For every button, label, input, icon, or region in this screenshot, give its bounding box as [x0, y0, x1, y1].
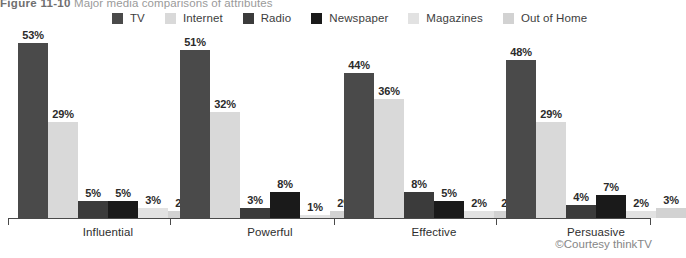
bar: 51%	[180, 50, 210, 218]
x-axis-tick	[334, 218, 335, 225]
bar: 7%	[596, 195, 626, 218]
bar-group: 51%32%3%8%1%2%	[180, 26, 360, 218]
bar: 32%	[210, 112, 240, 218]
legend-item-label: Internet	[183, 12, 223, 24]
bar-value-label: 3%	[247, 194, 263, 206]
bar-rect	[108, 201, 138, 218]
bar: 48%	[506, 60, 536, 218]
bar-rect	[464, 211, 494, 218]
bar-rect	[626, 211, 656, 218]
bar-value-label: 36%	[378, 85, 400, 97]
bar-rect	[596, 195, 626, 218]
legend-item-label: TV	[130, 12, 145, 24]
legend-item: TV	[112, 12, 145, 24]
bar-value-label: 29%	[52, 108, 74, 120]
bar: 3%	[240, 208, 270, 218]
bar-value-label: 48%	[510, 46, 532, 58]
chart-legend: TVInternetRadioNewspaperMagazinesOut of …	[112, 10, 607, 26]
legend-swatch-icon	[311, 13, 322, 24]
legend-item-label: Out of Home	[521, 12, 587, 24]
bar-rect	[18, 43, 48, 218]
bar-value-label: 3%	[145, 194, 161, 206]
bar: 29%	[536, 122, 566, 218]
legend-item: Internet	[165, 12, 223, 24]
x-axis-category-label: Effective	[344, 226, 524, 238]
bar-value-label: 7%	[603, 181, 619, 193]
bar: 4%	[566, 205, 596, 218]
chart-credit: ©Courtesy thinkTV	[555, 238, 652, 250]
bar-group: 53%29%5%5%3%2%	[18, 26, 198, 218]
bar-value-label: 5%	[115, 187, 131, 199]
bar-rect	[240, 208, 270, 218]
bar: 5%	[78, 201, 108, 218]
bar: 3%	[656, 208, 686, 218]
bar: 29%	[48, 122, 78, 218]
bar-value-label: 5%	[441, 187, 457, 199]
bar: 36%	[374, 99, 404, 218]
x-axis-tick	[650, 218, 651, 225]
legend-item-label: Newspaper	[329, 12, 388, 24]
bar-rect	[374, 99, 404, 218]
bar-rect	[270, 192, 300, 218]
legend-item: Newspaper	[311, 12, 388, 24]
bar-group: 48%29%4%7%2%3%	[506, 26, 686, 218]
legend-swatch-icon	[503, 13, 514, 24]
bar-value-label: 3%	[663, 194, 679, 206]
bar-rect	[48, 122, 78, 218]
legend-item-label: Magazines	[426, 12, 483, 24]
bar-value-label: 51%	[184, 36, 206, 48]
x-axis-line	[8, 218, 650, 219]
bar-rect	[180, 50, 210, 218]
bar-rect	[506, 60, 536, 218]
bar: 44%	[344, 73, 374, 218]
bar-value-label: 2%	[471, 197, 487, 209]
bar-value-label: 44%	[348, 59, 370, 71]
bar-value-label: 4%	[573, 191, 589, 203]
bar: 8%	[404, 192, 434, 218]
bar: 53%	[18, 43, 48, 218]
bar-value-label: 53%	[22, 29, 44, 41]
bar-rect	[344, 73, 374, 218]
bar-rect	[404, 192, 434, 218]
x-axis-tick	[170, 218, 171, 225]
bar-value-label: 29%	[540, 108, 562, 120]
bar-rect	[536, 122, 566, 218]
legend-item: Radio	[243, 12, 292, 24]
bar-value-label: 8%	[411, 178, 427, 190]
legend-swatch-icon	[243, 13, 254, 24]
bar-rect	[656, 208, 686, 218]
bar: 5%	[434, 201, 464, 218]
figure-caption: Major media comparisons of attributes	[74, 0, 273, 9]
chart-plot-area: 53%29%5%5%3%2%51%32%3%8%1%2%44%36%8%5%2%…	[0, 26, 658, 218]
bar: 8%	[270, 192, 300, 218]
bar-rect	[566, 205, 596, 218]
bar-value-label: 1%	[307, 201, 323, 213]
legend-item: Out of Home	[503, 12, 587, 24]
bar-value-label: 2%	[633, 197, 649, 209]
bar: 2%	[464, 211, 494, 218]
x-axis-category-label: Powerful	[180, 226, 360, 238]
bar-rect	[78, 201, 108, 218]
x-axis-category-label: Persuasive	[506, 226, 686, 238]
bar: 2%	[626, 211, 656, 218]
bar-rect	[434, 201, 464, 218]
x-axis-tick	[496, 218, 497, 225]
bar: 5%	[108, 201, 138, 218]
bar: 3%	[138, 208, 168, 218]
legend-swatch-icon	[165, 13, 176, 24]
x-axis-category-label: Influential	[18, 226, 198, 238]
legend-item: Magazines	[408, 12, 483, 24]
bar-value-label: 32%	[214, 98, 236, 110]
bar-value-label: 8%	[277, 178, 293, 190]
bar-rect	[138, 208, 168, 218]
figure-number: Figure 11-10	[0, 0, 71, 9]
bar-group: 44%36%8%5%2%2%	[344, 26, 524, 218]
legend-item-label: Radio	[261, 12, 292, 24]
bar-value-label: 5%	[85, 187, 101, 199]
bar-rect	[210, 112, 240, 218]
x-axis-tick	[8, 218, 9, 225]
legend-swatch-icon	[408, 13, 419, 24]
legend-swatch-icon	[112, 13, 123, 24]
